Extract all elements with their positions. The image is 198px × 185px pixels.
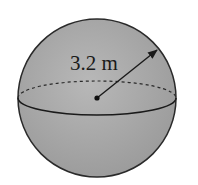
sphere-figure: 3.2 m: [0, 0, 198, 185]
sphere-diagram: 3.2 m: [0, 0, 198, 185]
center-point: [94, 95, 99, 100]
radius-label: 3.2 m: [70, 51, 118, 75]
